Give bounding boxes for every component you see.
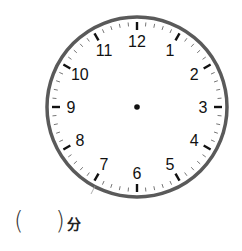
close-paren: ) — [55, 209, 64, 233]
hour-number-11: 11 — [96, 42, 113, 59]
unit-label-minutes: 分 — [67, 213, 81, 233]
hour-number-4: 4 — [190, 132, 199, 149]
hour-number-10: 10 — [71, 66, 89, 83]
answer-row: ( ) 分 — [14, 205, 81, 237]
hour-number-6: 6 — [133, 165, 142, 182]
center-dot — [134, 104, 140, 110]
hour-number-1: 1 — [166, 42, 175, 59]
hour-number-7: 7 — [100, 156, 109, 173]
hour-number-5: 5 — [166, 156, 175, 173]
hour-number-9: 9 — [67, 99, 76, 116]
hour-number-3: 3 — [199, 99, 208, 116]
hour-number-8: 8 — [75, 132, 84, 149]
open-paren: ( — [14, 209, 23, 233]
hour-number-12: 12 — [128, 33, 146, 50]
hour-number-2: 2 — [190, 66, 199, 83]
answer-blank[interactable] — [23, 209, 55, 233]
